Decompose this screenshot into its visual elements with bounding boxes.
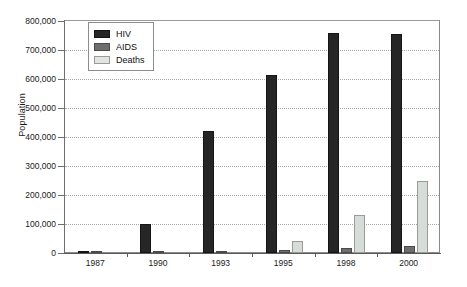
x-axis-tick-label: 1987 xyxy=(65,258,125,268)
figure-caption xyxy=(56,280,456,287)
bar-aids-1987 xyxy=(91,251,102,253)
y-axis-tick-label: 800,000 xyxy=(2,16,56,26)
bar-group xyxy=(378,21,441,253)
bar-aids-2000 xyxy=(404,246,415,253)
x-axis-tick-label: 1993 xyxy=(191,258,251,268)
x-axis-tick xyxy=(189,253,190,257)
bar-hiv-1987 xyxy=(78,251,89,253)
legend-item-aids: AIDS xyxy=(94,40,145,53)
bar-aids-1998 xyxy=(341,248,352,253)
legend-item-deaths: Deaths xyxy=(94,53,145,66)
bar-deaths-2000 xyxy=(417,181,428,254)
y-axis-tick-label: 0 xyxy=(2,248,56,258)
bar-aids-1995 xyxy=(279,250,290,253)
y-axis-tick xyxy=(58,50,64,51)
bar-hiv-1995 xyxy=(266,75,277,253)
bar-hiv-2000 xyxy=(391,34,402,253)
y-axis-tick xyxy=(58,21,64,22)
x-axis-tick xyxy=(315,253,316,257)
y-axis-tick-label: 600,000 xyxy=(2,74,56,84)
y-axis-tick-labels: 0100,000200,000300,000400,000500,000600,… xyxy=(0,0,56,287)
chart-legend: HIVAIDSDeaths xyxy=(88,22,154,71)
bar-deaths-1995 xyxy=(292,241,303,253)
y-axis-tick xyxy=(58,166,64,167)
y-axis-tick-label: 200,000 xyxy=(2,190,56,200)
x-axis-tick xyxy=(127,253,128,257)
legend-label: HIV xyxy=(116,29,131,39)
bar-chart-figure: Population 0100,000200,000300,000400,000… xyxy=(0,0,467,287)
x-axis-tick-label: 2000 xyxy=(379,258,439,268)
x-axis-tick-label: 1990 xyxy=(128,258,188,268)
y-axis-tick-label: 700,000 xyxy=(2,45,56,55)
bar-aids-1993 xyxy=(216,251,227,253)
x-axis-tick-label: 1998 xyxy=(316,258,376,268)
bar-group xyxy=(253,21,316,253)
bar-hiv-1990 xyxy=(140,224,151,253)
legend-swatch-aids-icon xyxy=(94,43,110,51)
bar-group xyxy=(190,21,253,253)
y-axis-tick xyxy=(58,253,64,254)
y-axis-tick-label: 300,000 xyxy=(2,161,56,171)
bar-hiv-1998 xyxy=(328,33,339,253)
bar-deaths-1998 xyxy=(354,215,365,253)
y-axis-tick xyxy=(58,137,64,138)
y-axis-tick xyxy=(58,108,64,109)
legend-label: AIDS xyxy=(116,42,137,52)
bar-group xyxy=(316,21,379,253)
legend-item-hiv: HIV xyxy=(94,27,145,40)
y-axis-tick-label: 100,000 xyxy=(2,219,56,229)
y-axis-tick xyxy=(58,224,64,225)
y-axis-tick-label: 500,000 xyxy=(2,103,56,113)
y-axis-tick xyxy=(58,79,64,80)
legend-swatch-deaths-icon xyxy=(94,56,110,64)
bar-aids-1990 xyxy=(153,251,164,253)
x-axis-tick-label: 1995 xyxy=(253,258,313,268)
legend-label: Deaths xyxy=(116,55,145,65)
x-axis-tick xyxy=(377,253,378,257)
y-axis-tick xyxy=(58,195,64,196)
y-axis-tick-label: 400,000 xyxy=(2,132,56,142)
x-axis-tick xyxy=(252,253,253,257)
bar-hiv-1993 xyxy=(203,131,214,253)
legend-swatch-hiv-icon xyxy=(94,30,110,38)
